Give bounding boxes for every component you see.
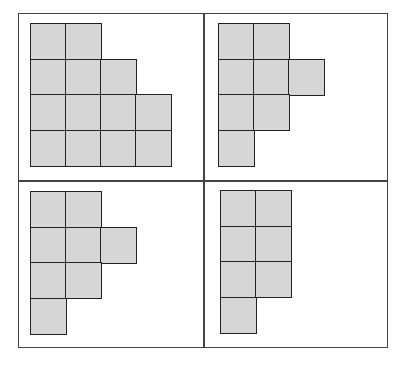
grid-cell — [30, 191, 67, 228]
grid-cell — [255, 226, 292, 263]
grid-cell — [220, 190, 257, 227]
grid-cell — [30, 130, 67, 167]
grid-cell — [288, 59, 325, 96]
grid-cell — [65, 191, 102, 228]
grid-cell — [65, 130, 102, 167]
grid-cell — [100, 94, 137, 131]
grid-cell — [253, 59, 290, 96]
grid-cell — [65, 23, 102, 60]
grid-cell — [30, 262, 67, 299]
grid-cell — [30, 23, 67, 60]
grid-cell — [253, 94, 290, 131]
grid-cell — [218, 130, 255, 167]
grid-cell — [135, 94, 172, 131]
grid-cell — [253, 23, 290, 60]
grid-cell — [220, 297, 257, 334]
horizontal-divider — [18, 180, 388, 182]
grid-cell — [30, 298, 67, 335]
grid-cell — [218, 94, 255, 131]
grid-cell — [135, 130, 172, 167]
grid-cell — [100, 227, 137, 264]
grid-cell — [100, 130, 137, 167]
grid-cell — [220, 261, 257, 298]
grid-cell — [65, 59, 102, 96]
grid-cell — [65, 227, 102, 264]
grid-cell — [30, 59, 67, 96]
grid-cell — [30, 94, 67, 131]
grid-cell — [65, 94, 102, 131]
grid-cell — [100, 59, 137, 96]
grid-cell — [255, 261, 292, 298]
grid-cell — [218, 23, 255, 60]
grid-cell — [255, 190, 292, 227]
grid-cell — [65, 262, 102, 299]
grid-cell — [220, 226, 257, 263]
grid-cell — [218, 59, 255, 96]
grid-cell — [30, 227, 67, 264]
